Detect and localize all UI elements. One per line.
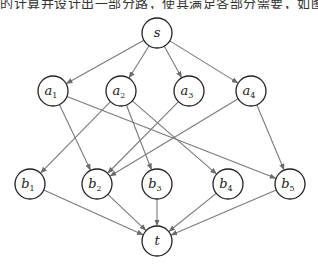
edge-a4-to-b5 xyxy=(257,105,284,170)
edge-a4-to-b2 xyxy=(110,99,238,176)
edge-b2-to-t xyxy=(108,194,146,230)
node-label: s xyxy=(154,25,161,40)
node-b4: b4 xyxy=(213,169,243,199)
edge-s-to-a1 xyxy=(67,40,144,83)
node-a4: a4 xyxy=(236,76,266,106)
node-layer: sa1a2a3a4b1b2b3b4b5t xyxy=(15,18,305,256)
node-t: t xyxy=(142,226,172,256)
node-a3: a3 xyxy=(174,76,204,106)
node-label: t xyxy=(154,233,160,248)
edge-layer xyxy=(41,40,284,235)
node-b3: b3 xyxy=(142,169,172,199)
flow-network-diagram: sa1a2a3a4b1b2b3b4b5t xyxy=(0,0,318,268)
edge-s-to-a2 xyxy=(129,46,149,78)
node-b1: b1 xyxy=(15,169,45,199)
edge-a3-to-b2 xyxy=(108,102,179,173)
edge-s-to-a4 xyxy=(170,41,238,83)
edge-s-to-a3 xyxy=(164,46,181,77)
node-a1: a1 xyxy=(38,76,68,106)
node-a2: a2 xyxy=(106,76,136,106)
node-b5: b5 xyxy=(275,169,305,199)
node-b2: b2 xyxy=(82,169,112,199)
node-s: s xyxy=(142,18,172,48)
edge-a2-to-b1 xyxy=(41,102,111,173)
